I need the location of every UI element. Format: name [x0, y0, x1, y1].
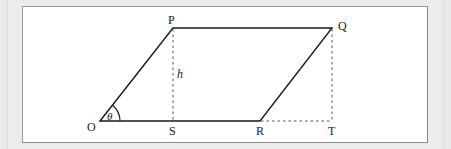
- label-s: S: [169, 124, 176, 138]
- label-q: Q: [338, 19, 347, 33]
- label-t: T: [328, 124, 336, 138]
- parallelogram-diagram: P Q O S R T h θ: [0, 0, 451, 149]
- angle-arc-theta: [112, 105, 120, 121]
- label-r: R: [256, 124, 264, 138]
- label-height-h: h: [177, 67, 183, 81]
- label-o: O: [87, 120, 96, 134]
- parallelogram-opqr: [100, 28, 332, 121]
- label-angle-theta: θ: [107, 110, 113, 122]
- label-p: P: [168, 13, 175, 27]
